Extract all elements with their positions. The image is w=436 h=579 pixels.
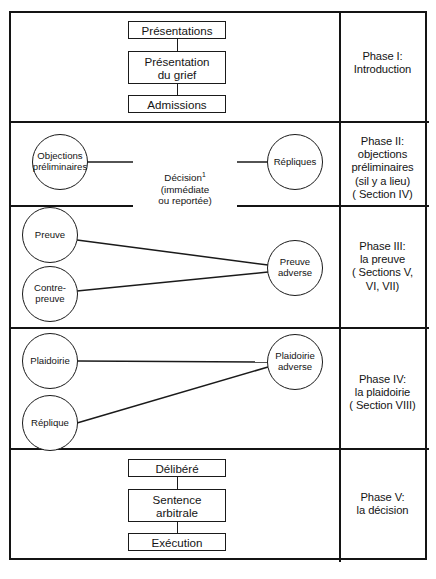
node-contre-preuve[interactable]: Contre- preuve (22, 266, 78, 322)
node-plaidoirie-adverse-label: Plaidoirie adverse (275, 351, 314, 372)
node-repliques-label: Répliques (274, 157, 317, 168)
decision-caption-detail: (immédiate ou reportée) (133, 184, 237, 207)
decision-caption-title: Décision (164, 172, 202, 183)
box-admissions[interactable]: Admissions (128, 95, 226, 113)
row-divider-1 (11, 121, 429, 123)
row-divider-3 (11, 327, 429, 329)
box-delibere-label: Délibéré (155, 462, 198, 475)
box-sentence-arbitrale-label: Sentence arbitrale (153, 493, 202, 519)
node-preuve-adverse-label: Preuve adverse (278, 257, 312, 278)
box-sentence-arbitrale[interactable]: Sentence arbitrale (128, 489, 226, 522)
box-admissions-label: Admissions (147, 98, 206, 111)
phase-label-2: Phase II: objections préliminaires (sil … (338, 135, 427, 201)
phase-label-3: Phase III: la preuve ( Sections V, VI, V… (338, 240, 427, 293)
box-presentations[interactable]: Présentations (128, 21, 226, 39)
box-delibere[interactable]: Délibéré (128, 459, 226, 477)
phase-label-4: Phase IV: la plaidoirie ( Section VIII) (338, 373, 427, 413)
decision-caption-footnote-marker: 1 (202, 171, 206, 178)
node-repliques[interactable]: Répliques (267, 134, 323, 190)
node-preuve[interactable]: Preuve (22, 207, 78, 263)
box-presentation-du-grief[interactable]: Présentation du grief (128, 51, 226, 84)
node-objections-preliminaires-label: Objections préliminaires (33, 151, 87, 172)
node-plaidoirie[interactable]: Plaidoirie (22, 333, 78, 389)
node-plaidoirie-adverse[interactable]: Plaidoirie adverse (267, 334, 323, 390)
node-replique-label: Réplique (31, 418, 69, 429)
node-preuve-adverse[interactable]: Preuve adverse (267, 240, 323, 296)
phase-label-5: Phase V: la décision (338, 491, 427, 517)
phase-label-1: Phase I: Introduction (338, 50, 427, 76)
node-preuve-label: Preuve (35, 230, 65, 241)
row-divider-4 (11, 448, 429, 450)
node-plaidoirie-label: Plaidoirie (30, 356, 69, 367)
box-presentation-du-grief-label: Présentation du grief (144, 55, 209, 81)
box-execution[interactable]: Exécution (128, 533, 226, 551)
node-contre-preuve-label: Contre- preuve (34, 283, 66, 304)
decision-caption: Décision1 (immédiate ou reportée) (133, 161, 237, 218)
node-replique[interactable]: Réplique (22, 395, 78, 451)
node-objections-preliminaires[interactable]: Objections préliminaires (32, 134, 88, 190)
box-execution-label: Exécution (152, 536, 203, 549)
arbitration-phases-diagram: Présentations Présentation du grief Admi… (0, 0, 436, 579)
box-presentations-label: Présentations (142, 24, 213, 37)
